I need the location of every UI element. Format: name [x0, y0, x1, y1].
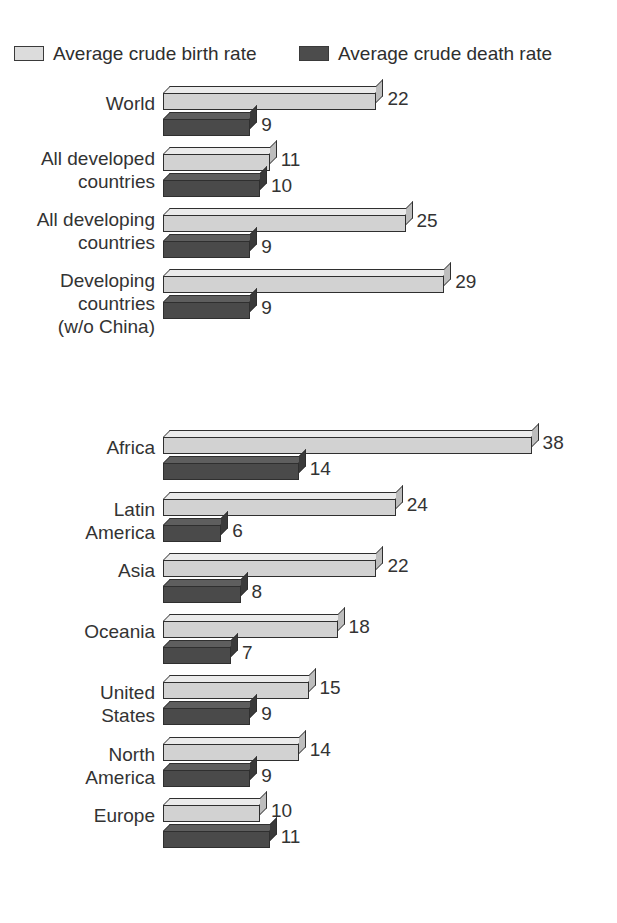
bar-value-label: 22 — [387, 555, 408, 577]
bar-end-cap — [376, 79, 383, 103]
bar-death — [163, 180, 260, 197]
bar-front-face — [163, 119, 250, 136]
bar-top-face — [163, 824, 277, 831]
bar-front-face — [163, 241, 250, 258]
bar-value-label: 24 — [407, 494, 428, 516]
bar-value-label: 9 — [261, 236, 272, 258]
bar-top-face — [163, 112, 257, 119]
bar-chart-plot-area: World229All developed countries1110All d… — [0, 0, 617, 923]
bar-front-face — [163, 525, 221, 542]
bar-value-label: 38 — [543, 432, 564, 454]
bar-end-cap — [532, 423, 539, 447]
bar-birth — [163, 276, 444, 293]
bar-front-face — [163, 93, 376, 110]
bar-value-label: 7 — [242, 642, 253, 664]
bar-top-face — [163, 763, 257, 770]
bar-death — [163, 302, 250, 319]
bar-birth — [163, 215, 406, 232]
bar-front-face — [163, 437, 532, 454]
bar-value-label: 18 — [349, 616, 370, 638]
bar-birth — [163, 560, 376, 577]
bar-front-face — [163, 463, 299, 480]
bar-birth — [163, 682, 309, 699]
bar-death — [163, 463, 299, 480]
bar-value-label: 14 — [310, 739, 331, 761]
category-label: Developing countries (w/o China) — [0, 269, 155, 338]
bar-end-cap — [396, 485, 403, 509]
bar-value-label: 6 — [232, 520, 243, 542]
bar-top-face — [163, 737, 306, 744]
bar-death — [163, 241, 250, 258]
bar-value-label: 25 — [417, 210, 438, 232]
bar-value-label: 29 — [455, 271, 476, 293]
bar-top-face — [163, 492, 403, 499]
bar-value-label: 22 — [387, 88, 408, 110]
bar-birth — [163, 499, 396, 516]
bar-top-face — [163, 701, 257, 708]
bar-value-label: 9 — [261, 765, 272, 787]
bar-end-cap — [309, 668, 316, 692]
bar-value-label: 8 — [252, 581, 263, 603]
bar-end-cap — [270, 140, 277, 164]
bar-front-face — [163, 770, 250, 787]
bar-death — [163, 708, 250, 725]
category-label: Europe — [0, 804, 155, 827]
bar-birth — [163, 93, 376, 110]
bar-top-face — [163, 86, 383, 93]
bar-front-face — [163, 560, 376, 577]
bar-birth — [163, 744, 299, 761]
bar-front-face — [163, 744, 299, 761]
category-label: Latin America — [0, 498, 155, 544]
bar-front-face — [163, 215, 406, 232]
bar-birth — [163, 621, 338, 638]
bar-front-face — [163, 708, 250, 725]
category-label: All developed countries — [0, 147, 155, 193]
bar-top-face — [163, 675, 316, 682]
bar-end-cap — [444, 262, 451, 286]
bar-top-face — [163, 456, 306, 463]
bar-end-cap — [338, 607, 345, 631]
bar-death — [163, 831, 270, 848]
bar-front-face — [163, 805, 260, 822]
bar-value-label: 15 — [320, 677, 341, 699]
bar-end-cap — [376, 546, 383, 570]
bar-end-cap — [260, 791, 267, 815]
bar-front-face — [163, 302, 250, 319]
category-label: United States — [0, 681, 155, 727]
bar-front-face — [163, 154, 270, 171]
category-label: World — [0, 92, 155, 115]
bar-top-face — [163, 579, 248, 586]
bar-top-face — [163, 518, 228, 525]
bar-value-label: 9 — [261, 703, 272, 725]
bar-death — [163, 586, 241, 603]
category-label: Africa — [0, 436, 155, 459]
bar-value-label: 14 — [310, 458, 331, 480]
bar-front-face — [163, 180, 260, 197]
bar-death — [163, 770, 250, 787]
bar-front-face — [163, 831, 270, 848]
bar-front-face — [163, 621, 338, 638]
bar-top-face — [163, 295, 257, 302]
category-label: North America — [0, 743, 155, 789]
bar-value-label: 10 — [271, 175, 292, 197]
bar-top-face — [163, 614, 345, 621]
bar-birth — [163, 154, 270, 171]
bar-top-face — [163, 553, 383, 560]
bar-death — [163, 119, 250, 136]
bar-top-face — [163, 269, 451, 276]
category-label: All developing countries — [0, 208, 155, 254]
bar-value-label: 11 — [281, 149, 301, 171]
bar-top-face — [163, 147, 277, 154]
bar-top-face — [163, 640, 238, 647]
bar-birth — [163, 805, 260, 822]
bar-value-label: 9 — [261, 114, 272, 136]
bar-front-face — [163, 499, 396, 516]
bar-value-label: 9 — [261, 297, 272, 319]
bar-top-face — [163, 430, 539, 437]
bar-top-face — [163, 208, 413, 215]
bar-death — [163, 525, 221, 542]
bar-front-face — [163, 586, 241, 603]
bar-front-face — [163, 276, 444, 293]
bar-death — [163, 647, 231, 664]
bar-top-face — [163, 798, 267, 805]
